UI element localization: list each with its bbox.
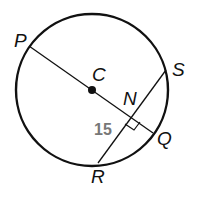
label-r: R [91,166,105,187]
circle-diagram: P C N Q S R 15 [0,0,199,197]
label-n: N [123,88,137,109]
label-c: C [92,64,106,85]
chord-rs [98,70,166,163]
label-p: P [14,30,27,51]
center-point [88,86,96,94]
length-label: 15 [94,121,112,138]
label-s: S [172,59,185,80]
label-q: Q [157,128,172,149]
